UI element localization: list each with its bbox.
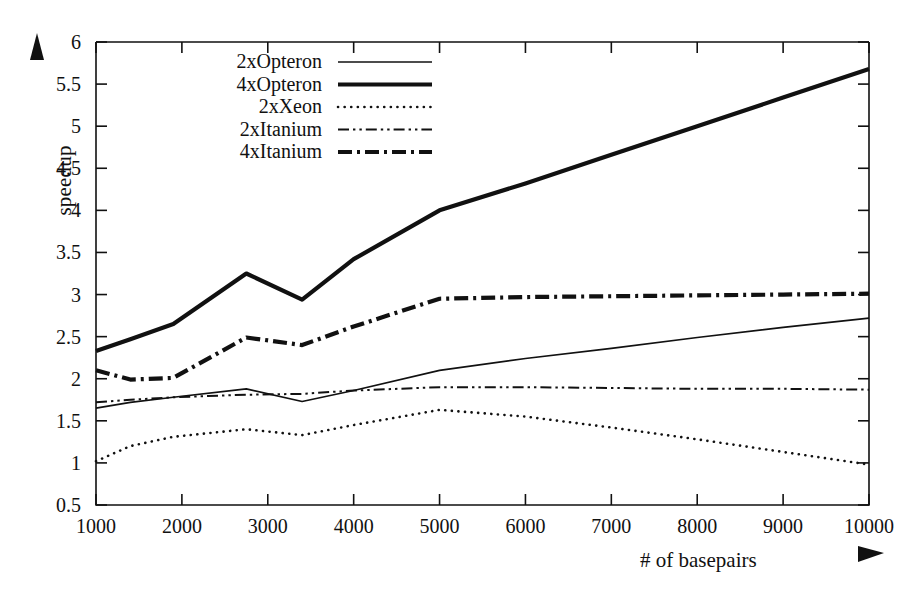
- y-tick-label: 5: [71, 115, 81, 137]
- y-axis-tick-labels: 0.511.522.533.544.555.56: [56, 31, 81, 516]
- legend-label-4xopteron: 4xOpteron: [236, 73, 322, 96]
- x-tick-label: 2000: [162, 515, 202, 537]
- series-line-4xitanium: [96, 294, 869, 380]
- legend-label-2xopteron: 2xOpteron: [236, 50, 322, 73]
- x-tick-label: 8000: [677, 515, 717, 537]
- x-tick-label: 1000: [76, 515, 116, 537]
- series-line-2xopteron: [96, 318, 869, 408]
- x-tick-label: 4000: [334, 515, 374, 537]
- up-arrow-icon: [30, 33, 44, 60]
- x-tick-label: 3000: [248, 515, 288, 537]
- y-tick-label: 1.5: [56, 410, 81, 432]
- legend-label-2xitanium: 2xItanium: [240, 118, 323, 140]
- y-tick-label: 3: [71, 284, 81, 306]
- y-tick-label: 2: [71, 368, 81, 390]
- right-arrow-icon: [858, 546, 884, 562]
- y-tick-label: 0.5: [56, 494, 81, 516]
- series-line-2xxeon: [96, 410, 869, 465]
- x-axis-ticks: [96, 42, 869, 505]
- chart-legend: 2xOpteron4xOpteron2xXeon2xItanium4xItani…: [236, 50, 432, 162]
- x-tick-label: 6000: [505, 515, 545, 537]
- y-tick-label: 6: [71, 31, 81, 53]
- y-tick-label: 2.5: [56, 326, 81, 348]
- speedup-line-chart: speedup # of basepairs 0.511.522.533.544…: [0, 0, 920, 601]
- y-tick-label: 5.5: [56, 73, 81, 95]
- y-tick-label: 1: [71, 452, 81, 474]
- y-tick-label: 4: [71, 199, 81, 221]
- data-series-group: [96, 69, 869, 465]
- y-tick-label: 4.5: [56, 157, 81, 179]
- y-axis-ticks: [96, 42, 869, 505]
- x-tick-label: 7000: [591, 515, 631, 537]
- series-line-2xitanium: [96, 387, 869, 402]
- legend-label-2xxeon: 2xXeon: [259, 95, 322, 117]
- series-line-4xopteron: [96, 69, 869, 351]
- plot-surface: 0.511.522.533.544.555.56 100020003000400…: [0, 0, 920, 601]
- x-axis-tick-labels: 1000200030004000500060007000800090001000…: [76, 515, 894, 537]
- x-tick-label: 10000: [844, 515, 894, 537]
- axis-frame: [96, 42, 869, 505]
- legend-label-4xitanium: 4xItanium: [240, 140, 323, 162]
- y-tick-label: 3.5: [56, 241, 81, 263]
- x-tick-label: 9000: [763, 515, 803, 537]
- x-tick-label: 5000: [420, 515, 460, 537]
